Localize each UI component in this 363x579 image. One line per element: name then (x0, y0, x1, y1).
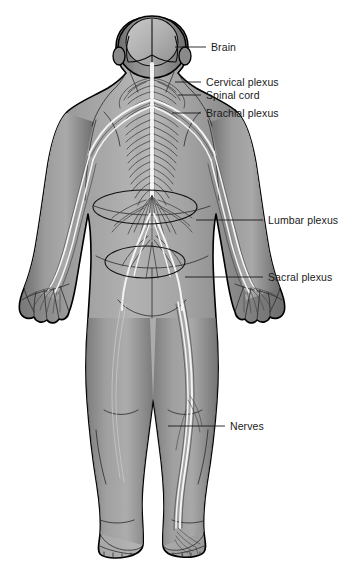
right-ear (179, 47, 191, 65)
anatomy-illustration: Brain Cervical plexus Spinal cord Brachi… (0, 0, 363, 579)
lumbar-plexus-label: Lumbar plexus (268, 214, 338, 226)
brachial-plexus-label: Brachial plexus (206, 107, 279, 119)
cervical-plexus-label: Cervical plexus (206, 76, 279, 88)
nerves-label: Nerves (230, 420, 264, 432)
sacral-plexus-label: Sacral plexus (268, 271, 332, 283)
left-ear (113, 47, 125, 65)
nervous-system-diagram: Brain Cervical plexus Spinal cord Brachi… (0, 0, 363, 579)
brain-label: Brain (211, 41, 236, 53)
spinal-cord-label: Spinal cord (206, 89, 260, 101)
